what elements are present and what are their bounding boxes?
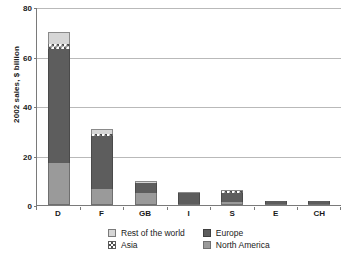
y-axis-title: 2002 sales, $ billion xyxy=(12,25,21,145)
x-axis-label-i: I xyxy=(167,207,211,221)
bar-slot-s xyxy=(211,8,254,205)
x-axis-label-s: S xyxy=(210,207,254,221)
stacked-bar[interactable] xyxy=(48,32,70,205)
legend-swatch-eu-icon xyxy=(203,229,211,237)
stacked-bar-chart: 2002 sales, $ billion 020406080 DFGBISEC… xyxy=(0,0,349,259)
stacked-bar[interactable] xyxy=(178,192,200,205)
y-axis-tick-label: 80 xyxy=(23,4,32,13)
bar-slot-ch xyxy=(298,8,341,205)
plot-area: 020406080 xyxy=(36,8,341,206)
stacked-bar[interactable] xyxy=(265,201,287,205)
bar-slot-e xyxy=(254,8,297,205)
legend-label: Rest of the world xyxy=(121,228,185,238)
stacked-bar[interactable] xyxy=(135,181,157,205)
bar-segment-na[interactable] xyxy=(91,189,113,205)
x-axis-label-gb: GB xyxy=(123,207,167,221)
bar-slot-i xyxy=(167,8,210,205)
x-axis-label-e: E xyxy=(254,207,298,221)
bar-segment-eu[interactable] xyxy=(91,136,113,189)
x-axis-tick xyxy=(36,207,37,210)
bar-segment-rw[interactable] xyxy=(48,32,70,44)
stacked-bar[interactable] xyxy=(91,129,113,205)
legend-label: Europe xyxy=(216,228,243,238)
legend-label: North America xyxy=(216,240,270,250)
x-axis-tick xyxy=(123,207,124,210)
x-axis-tick xyxy=(80,207,81,210)
x-axis-tick xyxy=(254,207,255,210)
legend-swatch-asia-icon xyxy=(108,241,116,249)
y-axis-tick-label: 0 xyxy=(28,202,32,211)
y-axis-tick-label: 40 xyxy=(23,103,32,112)
bar-segment-na[interactable] xyxy=(221,202,243,205)
legend-swatch-rw-icon xyxy=(108,229,116,237)
bar-segment-eu[interactable] xyxy=(221,193,243,202)
x-axis-tick xyxy=(210,207,211,210)
legend-item-eu[interactable]: Europe xyxy=(203,228,270,238)
legend-item-asia[interactable]: Asia xyxy=(108,240,185,250)
stacked-bar[interactable] xyxy=(308,201,330,205)
bar-segment-eu[interactable] xyxy=(135,183,157,193)
y-axis-tick-label: 20 xyxy=(23,152,32,161)
legend-label: Asia xyxy=(121,240,138,250)
bar-slot-d xyxy=(37,8,80,205)
bar-slot-gb xyxy=(124,8,167,205)
bar-segment-na[interactable] xyxy=(178,204,200,205)
chart-legend: Rest of the worldEuropeAsiaNorth America xyxy=(108,228,270,250)
x-axis-labels: DFGBISECH xyxy=(36,207,341,221)
bar-segment-na[interactable] xyxy=(135,193,157,205)
bar-segment-eu[interactable] xyxy=(48,49,70,163)
x-axis-label-ch: CH xyxy=(297,207,341,221)
legend-swatch-na-icon xyxy=(203,241,211,249)
x-axis-tick xyxy=(167,207,168,210)
bar-slot-f xyxy=(80,8,123,205)
stacked-bar[interactable] xyxy=(221,190,243,205)
bar-segment-na[interactable] xyxy=(265,204,287,205)
bar-segment-na[interactable] xyxy=(48,163,70,205)
bar-group xyxy=(37,8,341,205)
y-axis-tick-label: 60 xyxy=(23,53,32,62)
legend-item-na[interactable]: North America xyxy=(203,240,270,250)
bar-segment-eu[interactable] xyxy=(178,193,200,204)
legend-item-rw[interactable]: Rest of the world xyxy=(108,228,185,238)
x-axis-tick xyxy=(340,207,341,210)
x-axis-tick xyxy=(297,207,298,210)
x-axis-label-d: D xyxy=(36,207,80,221)
bar-segment-na[interactable] xyxy=(308,204,330,205)
x-axis-label-f: F xyxy=(80,207,124,221)
